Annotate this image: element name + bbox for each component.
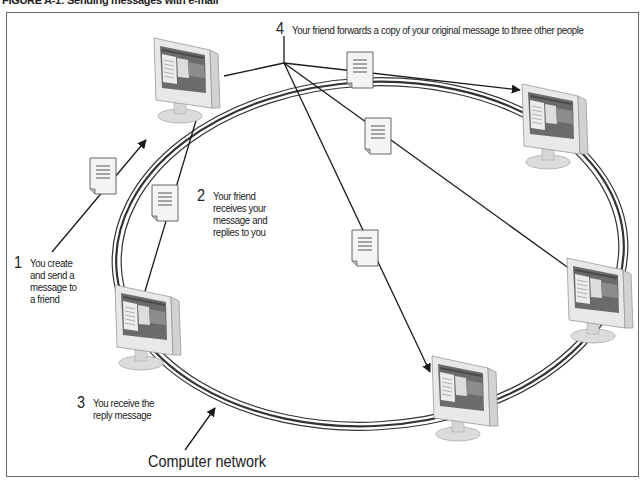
document-icon	[152, 185, 178, 221]
document-icon	[365, 118, 391, 154]
document-icon	[90, 158, 116, 194]
document-icon	[347, 52, 373, 88]
step-3-text: You receive the reply message	[93, 397, 154, 421]
computer-network-label: Computer network	[148, 452, 266, 472]
step-1-text: You create and send a message to a frien…	[30, 257, 77, 305]
step-4-text: Your friend forwards a copy of your orig…	[292, 24, 584, 36]
monitor-icon	[432, 356, 498, 441]
monitor-icon	[154, 38, 220, 123]
step-3-number: 3	[77, 393, 85, 413]
document-icon	[352, 230, 378, 266]
message-arrows	[52, 36, 588, 450]
step-4-number: 4	[276, 19, 284, 39]
step-2-number: 2	[197, 186, 205, 206]
step-2-text: Your friend receives your message and re…	[213, 190, 267, 238]
monitor-icon	[115, 285, 181, 370]
monitor-icon	[567, 258, 633, 343]
step-1-number: 1	[14, 253, 22, 273]
